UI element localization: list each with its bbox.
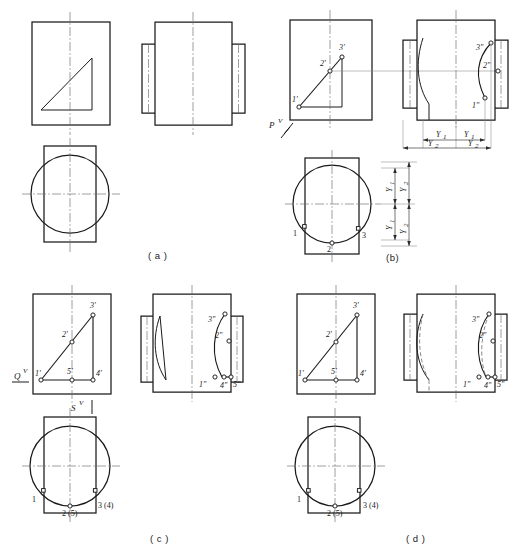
label-3-4-c-top: 3 (4) — [98, 501, 114, 510]
panel-d-top-view: 1 2 (5) 3 (4) — [287, 408, 385, 522]
label-5-dprime-c: 5" — [233, 380, 241, 389]
label-2-prime-c: 2' — [62, 330, 68, 339]
label-plane-q-sup-c: V — [23, 367, 28, 375]
label-1-c-top: 1 — [32, 495, 36, 504]
label-1-dprime-d: 1" — [463, 380, 471, 389]
label-1-prime-c: 1' — [35, 369, 41, 378]
panel-a-side-view — [142, 12, 245, 135]
svg-text:1: 1 — [388, 182, 396, 186]
label-2-dprime-b: 2" — [483, 61, 491, 70]
svg-text:Y: Y — [464, 130, 470, 139]
label-2-5-c-top: 2 (5) — [62, 509, 78, 518]
label-1-prime-b: 1' — [292, 95, 298, 104]
panel-b-dim-y2: Y2 Y2 — [403, 139, 491, 150]
label-1-prime-d: 1' — [298, 369, 304, 378]
label-2-b-top: 2 — [327, 245, 331, 254]
svg-text:Y: Y — [385, 186, 394, 192]
label-2-dprime-c: 2" — [215, 331, 223, 340]
label-5-prime-c: 5' — [67, 367, 73, 376]
svg-text:Y: Y — [399, 228, 408, 234]
panel-b-dim-vertical: Y1 Y1 Y2 Y2 — [381, 162, 417, 246]
label-plane-s-sup-c: V — [79, 399, 84, 407]
panel-a — [0, 0, 258, 278]
label-2-prime-b: 2' — [320, 59, 326, 68]
label-4-dprime-c: 4" — [220, 381, 228, 390]
label-1-dprime-c: 1" — [199, 380, 207, 389]
caption-a: ( a ) — [148, 250, 167, 261]
caption-b: (b) — [386, 252, 399, 263]
panel-c-front-view: 1' 2' 3' 4' 5' Q V S V — [12, 285, 111, 414]
label-1-b-top: 1 — [293, 229, 297, 238]
label-3-4-d-top: 3 (4) — [363, 501, 379, 510]
panel-b: 1' 2' 3' P V 3" — [257, 0, 515, 278]
svg-text:1: 1 — [388, 220, 396, 224]
label-4-dprime-d: 4" — [484, 381, 492, 390]
label-2-5-d-top: 2 (5) — [327, 509, 343, 518]
svg-text:Y: Y — [436, 130, 442, 139]
svg-text:Y: Y — [428, 139, 434, 148]
label-3-prime-c: 3' — [89, 301, 96, 310]
panel-d-side-view: 3" 2" 1" 4" 5" — [404, 285, 507, 402]
label-3-prime-b: 3' — [338, 43, 345, 52]
label-2-dprime-d: 2" — [479, 331, 487, 340]
label-3-dprime-d: 3" — [471, 315, 480, 324]
label-4-prime-c: 4' — [96, 369, 102, 378]
label-1-dprime-b: 1" — [472, 101, 480, 110]
label-3-b-top: 3 — [362, 231, 366, 240]
svg-text:2: 2 — [402, 223, 410, 227]
svg-text:2: 2 — [475, 142, 479, 150]
label-4-prime-d: 4' — [360, 369, 366, 378]
svg-text:Y: Y — [385, 224, 394, 230]
panel-b-front-view: 1' 2' 3' P V — [268, 10, 499, 138]
svg-text:2: 2 — [402, 181, 410, 185]
panel-b-top-view: 1 2 3 — [285, 150, 417, 262]
label-1-d-top: 1 — [297, 495, 301, 504]
panel-b-side-view: 3" 2" 1" Y1 Y1 Y2 Y2 — [403, 10, 508, 150]
label-2-prime-d: 2' — [326, 330, 332, 339]
panel-c: 1' 2' 3' 4' 5' Q V S V — [0, 280, 258, 555]
label-5-dprime-d: 5" — [497, 380, 505, 389]
panel-c-side-view: 3" 2" 1" 4" 5" — [141, 285, 243, 402]
label-plane-q-c: Q — [14, 371, 21, 381]
panel-c-top-view: 1 2 (5) 3 (4) — [22, 408, 120, 522]
caption-d: ( d ) — [406, 533, 425, 544]
caption-c: ( c ) — [150, 533, 169, 544]
panel-a-front-view — [32, 12, 110, 135]
svg-text:2: 2 — [435, 142, 439, 150]
label-3-dprime-c: 3" — [207, 315, 216, 324]
panel-a-top-view — [22, 138, 120, 252]
label-plane-p-b: P — [268, 120, 275, 130]
svg-text:Y: Y — [399, 186, 408, 192]
panel-d-front-view: 1' 2' 3' 4' 5' — [297, 285, 375, 404]
drawing-sheet: ( a ) 1' 2' 3' P V — [0, 0, 515, 555]
svg-text:1: 1 — [443, 133, 447, 141]
label-plane-p-sup-b: V — [278, 117, 283, 125]
label-plane-s-c: S — [71, 403, 76, 413]
label-3-prime-d: 3' — [352, 301, 359, 310]
panel-d: 1' 2' 3' 4' 5' 3" — [257, 280, 515, 555]
label-3-dprime-b: 3" — [475, 43, 484, 52]
label-5-prime-d: 5' — [331, 367, 337, 376]
